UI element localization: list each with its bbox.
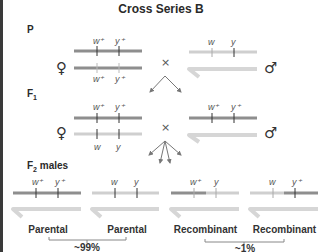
svg-text:y⁺: y⁺ (230, 102, 242, 112)
f2-type-label: Recombinant (168, 224, 243, 235)
svg-text:w: w (111, 177, 118, 187)
svg-text:w⁺: w⁺ (32, 177, 44, 187)
svg-text:w⁺: w⁺ (208, 102, 220, 112)
f2-male-3-x-chromosome: w⁺ y (171, 177, 239, 198)
cross-diagram: ♀ w⁺ y⁺ w⁺ y⁺ × w y ♂ ♀ w⁺ y⁺ (0, 0, 322, 252)
svg-text:y: y (115, 142, 121, 152)
cross-symbol: × (161, 56, 170, 69)
male-symbol: ♂ (264, 59, 277, 77)
svg-text:y⁺: y⁺ (54, 177, 66, 187)
p-male-x-chromosome: w y (189, 37, 257, 57)
f1-female-x-chromosome-top: w⁺ y⁺ (74, 102, 142, 123)
male-symbol: ♂ (264, 124, 277, 142)
svg-text:w⁺: w⁺ (190, 177, 202, 187)
svg-text:y: y (230, 37, 236, 47)
svg-text:w: w (269, 177, 276, 187)
svg-text:w⁺: w⁺ (93, 74, 105, 84)
female-symbol: ♀ (56, 124, 67, 142)
f2-male-3-y-chromosome (171, 209, 239, 217)
svg-text:y⁺: y⁺ (114, 74, 126, 84)
svg-text:y: y (213, 177, 219, 187)
p-male-y-chromosome (189, 69, 257, 77)
f2-male-1-x-chromosome: w⁺ y⁺ (13, 177, 81, 198)
svg-text:y⁺: y⁺ (291, 177, 303, 187)
f1-male-x-chromosome: w⁺ y⁺ (189, 102, 257, 123)
f2-type-label: Recombinant (247, 224, 322, 235)
female-symbol: ♀ (56, 59, 67, 77)
svg-text:y⁺: y⁺ (114, 36, 126, 46)
svg-text:w: w (208, 37, 215, 47)
f2-type-label: Parental (97, 224, 157, 235)
f2-male-4-y-chromosome (250, 209, 318, 217)
svg-text:w: w (94, 142, 101, 152)
parental-frequency: ~99% (67, 242, 107, 252)
f2-male-2-x-chromosome: w y (92, 177, 159, 198)
f1-to-f2-arrows (149, 141, 181, 163)
p-female-x-chromosome-bottom: w⁺ y⁺ (74, 63, 142, 84)
svg-text:y⁺: y⁺ (114, 102, 126, 112)
f1-male-y-chromosome (189, 135, 257, 142)
f2-type-label: Parental (18, 224, 78, 235)
p-to-f1-arrows (150, 76, 181, 92)
p-female-x-chromosome-top: w⁺ y⁺ (74, 36, 142, 56)
f1-female-x-chromosome-bottom: w y (74, 129, 142, 152)
f2-male-4-x-chromosome: w y⁺ (250, 177, 318, 198)
svg-text:w⁺: w⁺ (93, 36, 105, 46)
svg-text:y: y (133, 177, 139, 187)
f2-male-2-y-chromosome (92, 209, 159, 217)
f2-male-1-y-chromosome (13, 209, 81, 217)
svg-text:w⁺: w⁺ (93, 102, 105, 112)
recombinant-frequency: ~1% (225, 243, 265, 252)
cross-symbol: × (161, 121, 170, 134)
